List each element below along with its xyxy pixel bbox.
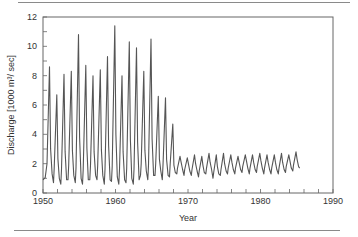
x-axis-title: Year (179, 213, 197, 223)
x-tick-label: 1990 (323, 196, 343, 206)
x-tick-label: 1960 (105, 196, 125, 206)
y-axis-title: Discharge [1000 m³/ sec] (6, 55, 16, 155)
x-tick-label: 1980 (250, 196, 270, 206)
y-tick-label: 0 (32, 188, 37, 198)
y-tick-label: 10 (27, 41, 37, 51)
x-tick-label: 1970 (178, 196, 198, 206)
y-tick-label: 6 (32, 100, 37, 110)
y-tick-label: 4 (32, 129, 37, 139)
discharge-line (43, 26, 300, 184)
y-tick-label: 12 (27, 12, 37, 22)
discharge-chart: 19501960197019801990024681012 Year Disch… (0, 0, 358, 237)
y-tick-label: 8 (32, 71, 37, 81)
y-tick-label: 2 (32, 159, 37, 169)
